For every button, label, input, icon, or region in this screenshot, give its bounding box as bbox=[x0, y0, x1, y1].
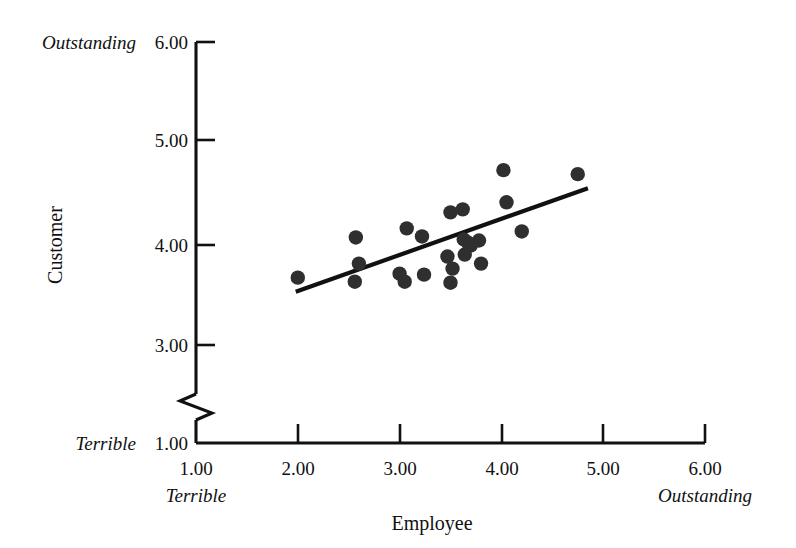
x-tick-label-2: 2.00 bbox=[281, 458, 314, 479]
data-point bbox=[352, 256, 366, 270]
y-axis-title: Customer bbox=[44, 206, 66, 284]
plot-canvas: 6.00 5.00 4.00 3.00 1.00 Outstanding Ter… bbox=[0, 0, 796, 548]
y-axis-anchor-high-label: Outstanding bbox=[42, 32, 136, 53]
data-point bbox=[415, 229, 429, 243]
y-tick-label-3: 3.00 bbox=[155, 335, 188, 356]
x-axis-anchor-low-label: Terrible bbox=[166, 485, 227, 506]
x-axis-anchor-high-label: Outstanding bbox=[658, 485, 752, 506]
y-tick-marks bbox=[196, 42, 215, 345]
y-tick-label-5: 5.00 bbox=[155, 130, 188, 151]
data-points-group bbox=[291, 163, 585, 290]
data-point bbox=[397, 274, 411, 288]
data-point bbox=[472, 233, 486, 247]
data-point bbox=[515, 224, 529, 238]
data-point bbox=[499, 195, 513, 209]
y-tick-label-4: 4.00 bbox=[155, 235, 188, 256]
y-axis-anchor-low-label: Terrible bbox=[75, 433, 136, 454]
data-point bbox=[456, 202, 470, 216]
scatter-plot-figure: 6.00 5.00 4.00 3.00 1.00 Outstanding Ter… bbox=[0, 0, 796, 548]
data-point bbox=[443, 275, 457, 289]
data-point bbox=[417, 267, 431, 281]
x-tick-label-1: 1.00 bbox=[179, 458, 212, 479]
data-point bbox=[348, 274, 362, 288]
data-point bbox=[445, 261, 459, 275]
data-point bbox=[291, 270, 305, 284]
data-point bbox=[443, 205, 457, 219]
trendline bbox=[296, 188, 588, 292]
data-point bbox=[400, 221, 414, 235]
regression-line bbox=[296, 188, 588, 292]
y-axis-break-icon bbox=[180, 394, 212, 420]
x-tick-label-5: 5.00 bbox=[586, 458, 619, 479]
x-tick-label-6: 6.00 bbox=[688, 458, 721, 479]
data-point bbox=[349, 230, 363, 244]
x-axis-title: Employee bbox=[391, 512, 472, 535]
x-tick-marks bbox=[298, 424, 705, 443]
x-tick-label-3: 3.00 bbox=[383, 458, 416, 479]
data-point bbox=[474, 256, 488, 270]
x-tick-label-4: 4.00 bbox=[485, 458, 518, 479]
y-tick-label-6: 6.00 bbox=[155, 32, 188, 53]
data-point bbox=[571, 167, 585, 181]
data-point bbox=[458, 247, 472, 261]
y-tick-label-1: 1.00 bbox=[155, 433, 188, 454]
data-point bbox=[496, 163, 510, 177]
